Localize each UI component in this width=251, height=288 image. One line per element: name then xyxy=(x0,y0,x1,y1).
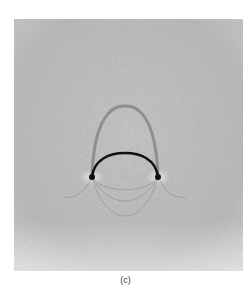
iron-filings-photo xyxy=(14,19,243,271)
photo-svg xyxy=(14,19,243,271)
photo-fade xyxy=(14,19,243,271)
figure-caption: (c) xyxy=(0,275,251,285)
